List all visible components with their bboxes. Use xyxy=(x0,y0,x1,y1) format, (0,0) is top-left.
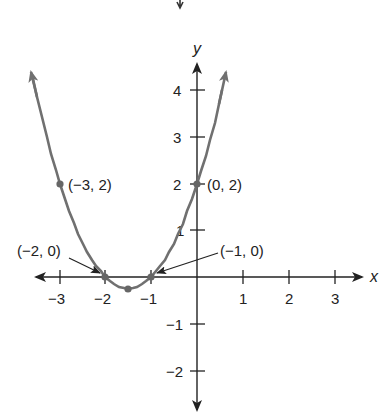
x-axis-label: x xyxy=(369,268,379,285)
x-tick-label: 1 xyxy=(239,290,247,307)
y-tick-labels: 4 3 2 1 −1 −2 xyxy=(166,82,184,380)
label-minus1-0: (−1, 0) xyxy=(220,242,264,259)
x-tick-label: −1 xyxy=(140,290,157,307)
label-minus3-2: (−3, 2) xyxy=(68,176,112,193)
top-fragment-arrow-icon xyxy=(177,0,183,8)
y-tick-label: 2 xyxy=(173,176,181,193)
parabola-chart: x y −3 −2 −1 1 2 3 4 3 2 1 −1 −2 xyxy=(0,0,390,416)
curve-arrow-left xyxy=(31,72,37,97)
y-tick-label: 4 xyxy=(173,82,181,99)
point-minus1-0 xyxy=(147,273,154,280)
x-tick-labels: −3 −2 −1 1 2 3 xyxy=(48,290,339,307)
x-tick-label: 3 xyxy=(331,290,339,307)
y-tick-label: 3 xyxy=(173,129,181,146)
point-0-2 xyxy=(193,180,200,187)
curve-arrow-right xyxy=(219,72,226,104)
vertex-point xyxy=(124,285,131,292)
x-tick-label: 2 xyxy=(285,290,293,307)
y-axis-label: y xyxy=(192,40,202,57)
label-minus2-0: (−2, 0) xyxy=(17,242,61,259)
y-tick-label: −1 xyxy=(166,316,183,333)
label-0-2: (0, 2) xyxy=(207,176,242,193)
point-minus3-2 xyxy=(56,180,63,187)
y-tick-label: −2 xyxy=(166,363,183,380)
x-tick-label: −2 xyxy=(94,290,111,307)
x-tick-label: −3 xyxy=(48,290,65,307)
point-minus2-0 xyxy=(101,273,108,280)
